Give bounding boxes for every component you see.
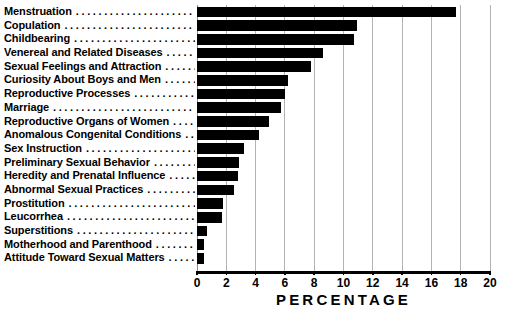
leader-dots bbox=[165, 73, 195, 87]
bar-track bbox=[197, 142, 497, 156]
leader-dots bbox=[147, 183, 195, 197]
x-tick-18 bbox=[460, 271, 462, 275]
x-tick-2 bbox=[226, 271, 228, 275]
category-label-cell: Sexual Feelings and Attraction bbox=[4, 60, 195, 74]
leader-dots bbox=[74, 32, 195, 46]
x-tick-label-4: 4 bbox=[243, 276, 269, 290]
leader-dots bbox=[167, 46, 195, 60]
bar bbox=[197, 212, 222, 223]
bar-row: Abnormal Sexual Practices bbox=[0, 183, 505, 197]
category-label: Preliminary Sexual Behavior bbox=[4, 156, 154, 170]
bar-track bbox=[197, 46, 497, 60]
category-label-cell: Reproductive Processes bbox=[4, 87, 195, 101]
category-label: Sexual Feelings and Attraction bbox=[4, 60, 165, 74]
x-tick-label-14: 14 bbox=[389, 276, 415, 290]
category-label-cell: Menstruation bbox=[4, 5, 195, 19]
category-label-cell: Preliminary Sexual Behavior bbox=[4, 156, 195, 170]
bar-row: Copulation bbox=[0, 19, 505, 33]
category-label-cell: Anomalous Congenital Conditions bbox=[4, 128, 195, 142]
x-tick-0 bbox=[196, 271, 198, 275]
category-label: Leucorrhea bbox=[4, 210, 67, 224]
bar bbox=[197, 185, 234, 196]
leader-dots bbox=[165, 60, 195, 74]
bar-row: Childbearing bbox=[0, 32, 505, 46]
category-label: Superstitions bbox=[4, 224, 77, 238]
category-label-cell: Venereal and Related Diseases bbox=[4, 46, 195, 60]
bar-track bbox=[197, 197, 497, 211]
chart-rows: MenstruationCopulationChildbearingVenere… bbox=[0, 5, 505, 269]
bar-row: Anomalous Congenital Conditions bbox=[0, 128, 505, 142]
bar-track bbox=[197, 5, 497, 19]
x-tick-label-2: 2 bbox=[213, 276, 239, 290]
bar bbox=[197, 157, 239, 168]
category-label-cell: Copulation bbox=[4, 19, 195, 33]
category-label: Prostitution bbox=[4, 197, 69, 211]
bar-track bbox=[197, 101, 497, 115]
leader-dots bbox=[67, 210, 195, 224]
x-tick-6 bbox=[284, 271, 286, 275]
category-label: Anomalous Congenital Conditions bbox=[4, 128, 185, 142]
x-tick-label-10: 10 bbox=[331, 276, 357, 290]
x-axis-title: PERCENTAGE bbox=[197, 291, 490, 309]
x-tick-12 bbox=[372, 271, 374, 275]
x-tick-label-6: 6 bbox=[272, 276, 298, 290]
leader-dots bbox=[53, 101, 195, 115]
category-label-cell: Attitude Toward Sexual Matters bbox=[4, 251, 195, 265]
category-label-cell: Motherhood and Parenthood bbox=[4, 238, 195, 252]
category-label-cell: Prostitution bbox=[4, 197, 195, 211]
bar-track bbox=[197, 210, 497, 224]
bar-row: Leucorrhea bbox=[0, 210, 505, 224]
category-label: Motherhood and Parenthood bbox=[4, 238, 156, 252]
leader-dots bbox=[173, 115, 195, 129]
bar-track bbox=[197, 128, 497, 142]
bar-track bbox=[197, 73, 497, 87]
bar-row: Superstitions bbox=[0, 224, 505, 238]
horizontal-bar-chart: MenstruationCopulationChildbearingVenere… bbox=[0, 0, 505, 318]
bar-row: Reproductive Organs of Women bbox=[0, 115, 505, 129]
category-label-cell: Leucorrhea bbox=[4, 210, 195, 224]
leader-dots bbox=[134, 87, 195, 101]
category-label: Venereal and Related Diseases bbox=[4, 46, 167, 60]
leader-dots bbox=[156, 238, 195, 252]
bar-row: Prostitution bbox=[0, 197, 505, 211]
x-tick-label-8: 8 bbox=[301, 276, 327, 290]
bar bbox=[197, 89, 285, 100]
x-tick-20 bbox=[489, 271, 491, 275]
x-tick-16 bbox=[431, 271, 433, 275]
bar-track bbox=[197, 156, 497, 170]
bar-track bbox=[197, 60, 497, 74]
bar-track bbox=[197, 115, 497, 129]
bar-row: Reproductive Processes bbox=[0, 87, 505, 101]
x-tick-label-0: 0 bbox=[184, 276, 210, 290]
category-label-cell: Curiosity About Boys and Men bbox=[4, 73, 195, 87]
bar-track bbox=[197, 238, 497, 252]
bar-row: Attitude Toward Sexual Matters bbox=[0, 251, 505, 265]
bar-track bbox=[197, 251, 497, 265]
bar bbox=[197, 75, 288, 86]
bar bbox=[197, 130, 259, 141]
bar-track bbox=[197, 32, 497, 46]
category-label: Attitude Toward Sexual Matters bbox=[4, 251, 169, 265]
bar bbox=[197, 226, 207, 237]
bar-track bbox=[197, 87, 497, 101]
bar-row: Venereal and Related Diseases bbox=[0, 46, 505, 60]
bar bbox=[197, 102, 281, 113]
category-label-cell: Childbearing bbox=[4, 32, 195, 46]
x-tick-8 bbox=[313, 271, 315, 275]
leader-dots bbox=[169, 251, 195, 265]
leader-dots bbox=[76, 5, 195, 19]
bar-row: Motherhood and Parenthood bbox=[0, 238, 505, 252]
leader-dots bbox=[69, 197, 195, 211]
bar-row: Sex Instruction bbox=[0, 142, 505, 156]
x-tick-label-16: 16 bbox=[418, 276, 444, 290]
category-label-cell: Abnormal Sexual Practices bbox=[4, 183, 195, 197]
category-label: Reproductive Processes bbox=[4, 87, 134, 101]
leader-dots bbox=[64, 19, 195, 33]
bar bbox=[197, 20, 357, 31]
bar bbox=[197, 48, 323, 59]
bar-row: Preliminary Sexual Behavior bbox=[0, 156, 505, 170]
category-label-cell: Heredity and Prenatal Influence bbox=[4, 169, 195, 183]
bar-track bbox=[197, 224, 497, 238]
x-tick-label-12: 12 bbox=[360, 276, 386, 290]
bar bbox=[197, 7, 456, 18]
